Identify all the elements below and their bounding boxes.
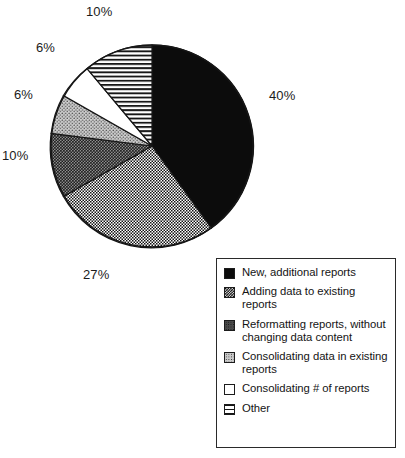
legend-item-new-additional-reports: New, additional reports (224, 266, 390, 279)
pie-label-new-additional-reports: 40% (269, 88, 295, 103)
legend-label: Adding data to existing reports (242, 285, 390, 311)
pie-label-adding-data: 27% (83, 267, 109, 282)
legend-label: Consolidating data in existing reports (242, 350, 390, 376)
legend-swatch-light-dots-icon (224, 352, 235, 363)
legend-swatch-checker-icon (224, 287, 235, 298)
legend-item-other: Other (224, 402, 390, 415)
legend-item-adding-data: Adding data to existing reports (224, 285, 390, 311)
legend: New, additional reports Adding data to e… (216, 258, 396, 448)
legend-swatch-dark-dots-icon (224, 320, 235, 331)
pie-label-consolidating-number-of-reports: 6% (36, 40, 55, 55)
pie-label-other: 10% (86, 4, 112, 19)
pie-label-consolidating-data: 6% (14, 87, 33, 102)
legend-label: New, additional reports (242, 266, 356, 279)
pie-chart-figure: 40% 27% 10% 6% 6% 10% New, additional re… (0, 0, 405, 458)
legend-label: Consolidating # of reports (242, 382, 369, 395)
legend-item-consolidating-number-of-reports: Consolidating # of reports (224, 382, 390, 395)
legend-label: Other (242, 402, 270, 415)
legend-label: Reformatting reports, without changing d… (242, 318, 390, 344)
legend-swatch-white-icon (224, 384, 235, 395)
legend-item-reformatting-reports: Reformatting reports, without changing d… (224, 318, 390, 344)
legend-item-consolidating-data: Consolidating data in existing reports (224, 350, 390, 376)
pie-label-reformatting-reports: 10% (2, 148, 28, 163)
legend-swatch-solid-black-icon (224, 268, 235, 279)
legend-swatch-horizontal-lines-icon (224, 404, 235, 415)
